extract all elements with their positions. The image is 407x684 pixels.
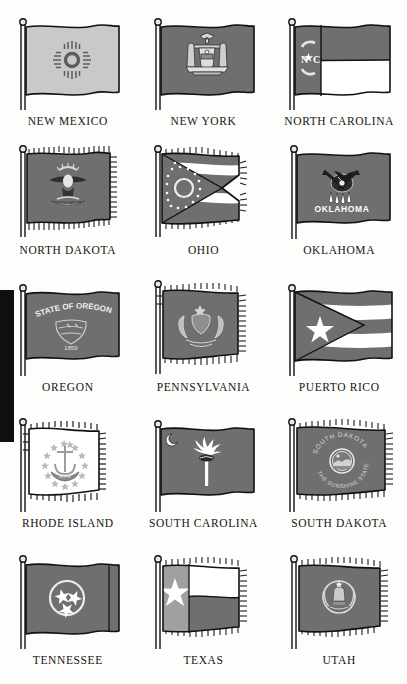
svg-text:C: C: [313, 54, 320, 65]
flag-grid: NEW MEXICO: [0, 0, 407, 684]
south-carolina-flag-graphic: [144, 416, 262, 520]
flag-texas[interactable]: [144, 553, 262, 657]
flag-south-dakota[interactable]: SOUTH DAKOTA THE SUNSHINE STATE: [280, 416, 398, 520]
flag-cell-new-york[interactable]: NEW YORK: [136, 0, 272, 137]
rhode-island-flag-graphic: HOPE: [9, 416, 127, 520]
texas-flag-graphic: [144, 553, 262, 657]
flag-pennsylvania[interactable]: [144, 280, 262, 384]
flag-north-dakota[interactable]: NORTH DAKOTA: [9, 143, 127, 247]
flag-cell-puerto-rico[interactable]: PUERTO RICO: [271, 274, 407, 411]
flag-new-york[interactable]: [144, 14, 262, 118]
flag-rhode-island[interactable]: HOPE: [9, 416, 127, 520]
utah-flag-graphic: [280, 553, 398, 657]
flag-cell-new-mexico[interactable]: NEW MEXICO: [0, 0, 136, 137]
flag-oklahoma[interactable]: OKLAHOMA: [280, 143, 398, 247]
oregon-flag-graphic: STATE OF OREGON 1859: [9, 280, 127, 384]
new-york-flag-graphic: [144, 14, 262, 118]
flag-cell-oklahoma[interactable]: OKLAHOMA OKLAHOMA: [271, 137, 407, 274]
flag-cell-utah[interactable]: UTAH: [271, 547, 407, 684]
flag-cell-pennsylvania[interactable]: PENNSYLVANIA: [136, 274, 272, 411]
flag-north-carolina[interactable]: N C: [280, 14, 398, 118]
oregon-date-text: 1859: [64, 345, 78, 351]
flag-cell-rhode-island[interactable]: HOPE RHODE ISLAND: [0, 410, 136, 547]
flag-new-mexico[interactable]: [9, 14, 127, 118]
flag-puerto-rico[interactable]: [280, 280, 398, 384]
flag-oregon[interactable]: STATE OF OREGON 1859: [9, 280, 127, 384]
flag-south-carolina[interactable]: [144, 416, 262, 520]
flag-tennessee[interactable]: [9, 553, 127, 657]
flag-ohio[interactable]: [144, 143, 262, 247]
north-carolina-flag-graphic: N C: [280, 14, 398, 118]
flag-cell-tennessee[interactable]: TENNESSEE: [0, 547, 136, 684]
flag-cell-north-dakota[interactable]: NORTH DAKOTA NORTH DAKOTA: [0, 137, 136, 274]
new-mexico-flag-graphic: [9, 14, 127, 118]
hope-ribbon-text: HOPE: [59, 474, 71, 479]
north-dakota-scroll-text: NORTH DAKOTA: [55, 201, 82, 205]
tennessee-flag-graphic: [9, 553, 127, 657]
oklahoma-flag-text: OKLAHOMA: [315, 204, 370, 214]
flag-cell-ohio[interactable]: OHIO: [136, 137, 272, 274]
north-dakota-flag-graphic: NORTH DAKOTA: [9, 143, 127, 247]
south-dakota-flag-graphic: SOUTH DAKOTA THE SUNSHINE STATE: [280, 416, 398, 520]
oklahoma-flag-graphic: OKLAHOMA: [280, 143, 398, 247]
flag-cell-north-carolina[interactable]: N C NORTH CAROLINA: [271, 0, 407, 137]
flag-cell-south-dakota[interactable]: SOUTH DAKOTA THE SUNSHINE STATE SOUTH DA…: [271, 410, 407, 547]
flag-utah[interactable]: [280, 553, 398, 657]
state-seal-icon: [330, 449, 354, 473]
pennsylvania-flag-graphic: [144, 280, 262, 384]
flag-cell-texas[interactable]: TEXAS: [136, 547, 272, 684]
puerto-rico-flag-graphic: [280, 280, 398, 384]
flag-chart-page: NEW MEXICO: [0, 0, 407, 684]
flag-cell-south-carolina[interactable]: SOUTH CAROLINA: [136, 410, 272, 547]
flag-cell-oregon[interactable]: STATE OF OREGON 1859 OREGON: [0, 274, 136, 411]
ohio-flag-graphic: [144, 143, 262, 247]
